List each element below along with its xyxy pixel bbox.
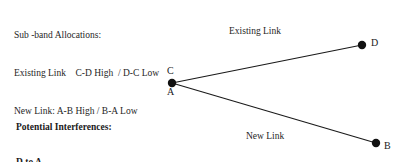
topology-svg: [0, 0, 407, 162]
node-marker-d: [358, 41, 366, 49]
link-line-existing: [172, 45, 362, 83]
node-label-d: D: [371, 38, 378, 48]
diagram-canvas: Sub -band Allocations: Existing Link C-D…: [0, 0, 407, 162]
network-topology-graphic: C A D B Existing Link New Link: [0, 0, 407, 162]
node-marker-b: [372, 139, 380, 147]
node-label-a: A: [167, 87, 174, 97]
node-label-c: C: [167, 66, 174, 76]
node-label-b: B: [384, 141, 391, 151]
link-label-existing: Existing Link: [229, 26, 281, 37]
link-label-new: New Link: [246, 131, 284, 142]
